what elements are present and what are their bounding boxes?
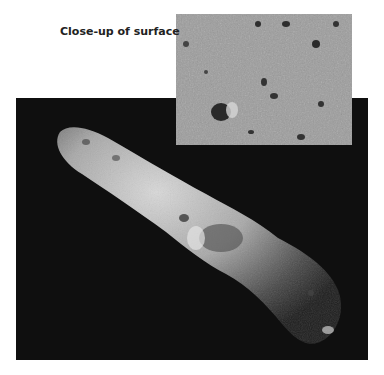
- surface-texture: [176, 14, 352, 145]
- inset-caption: Close-up of surface: [60, 25, 172, 38]
- surface-closeup-photo: [176, 14, 352, 145]
